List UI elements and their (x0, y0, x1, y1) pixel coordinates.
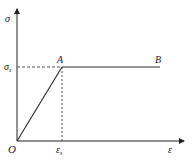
point-A-label: A (56, 54, 64, 65)
y-axis-label: σ (5, 13, 11, 24)
stress-strain-diagram: σ σs A B O εs ε (0, 0, 193, 168)
point-B-label: B (155, 54, 161, 65)
origin-label: O (8, 143, 16, 155)
elastic-segment-OA (17, 67, 62, 141)
yield-strain-label: εs (56, 144, 63, 156)
yield-stress-label: σs (4, 61, 12, 73)
x-axis-label: ε (168, 144, 172, 155)
